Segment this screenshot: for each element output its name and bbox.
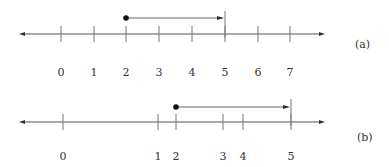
number-line-b: 012345 (b) bbox=[19, 99, 373, 163]
tick-label: 0 bbox=[60, 150, 67, 163]
left-arrowhead-icon bbox=[19, 120, 25, 124]
tick-label: 6 bbox=[255, 66, 262, 79]
interval-start-dot-b bbox=[173, 104, 179, 110]
interval-start-dot-a bbox=[123, 15, 129, 21]
right-arrowhead-icon bbox=[319, 120, 325, 124]
interval-arrowhead-icon bbox=[217, 16, 224, 20]
tick-label: 5 bbox=[222, 66, 229, 79]
tick-label: 2 bbox=[123, 66, 130, 79]
tick-label: 3 bbox=[220, 150, 227, 163]
tick-label: 4 bbox=[189, 66, 196, 79]
tick-label: 2 bbox=[173, 150, 180, 163]
tick-label: 3 bbox=[156, 66, 163, 79]
tick-label: 7 bbox=[287, 66, 294, 79]
left-arrowhead-icon bbox=[19, 32, 25, 36]
number-line-a: 01234567 (a) bbox=[19, 11, 370, 79]
tick-label: 5 bbox=[288, 150, 295, 163]
tick-label: 4 bbox=[240, 150, 247, 163]
caption-b: (b) bbox=[357, 131, 373, 144]
number-line-diagram: 01234567 (a) 012345 (b) bbox=[0, 0, 389, 167]
tick-label: 0 bbox=[58, 66, 65, 79]
tick-label: 1 bbox=[91, 66, 98, 79]
tick-label: 1 bbox=[155, 150, 162, 163]
interval-arrowhead-icon bbox=[283, 105, 290, 109]
right-arrowhead-icon bbox=[319, 32, 325, 36]
caption-a: (a) bbox=[355, 38, 370, 51]
